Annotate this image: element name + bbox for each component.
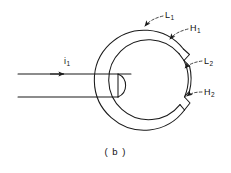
figure-container: i1 L1 H1 L2 H2 ( b ) [0,0,231,173]
label-h2-subscript: 2 [211,91,215,98]
label-h2: H2 [204,88,215,97]
leader-h2 [187,92,202,96]
leader-h1 [170,29,188,39]
feed-transmission-line [18,74,131,97]
label-l1-subscript: 1 [171,14,175,21]
upper-step-discontinuity [179,49,190,66]
label-h2-text: H [204,87,211,97]
figure-caption: ( b ) [0,146,231,157]
label-current-text: i [64,56,66,66]
leader-l1 [145,16,163,26]
label-l2: L2 [204,57,213,66]
label-current-i1: i1 [64,57,70,66]
lower-step-discontinuity [180,91,190,110]
label-l2-text: L [204,56,209,66]
outer-ring-arc [94,30,184,130]
label-h1-subscript: 1 [197,27,201,34]
label-l1-text: L [165,10,170,20]
inner-ring-arc [109,40,180,120]
label-l1: L1 [165,11,174,20]
label-l2-subscript: 2 [210,60,214,67]
label-h1-text: H [190,23,197,33]
label-current-subscript: 1 [67,60,71,67]
label-h1: H1 [190,24,201,33]
coupling-loop [118,74,126,97]
